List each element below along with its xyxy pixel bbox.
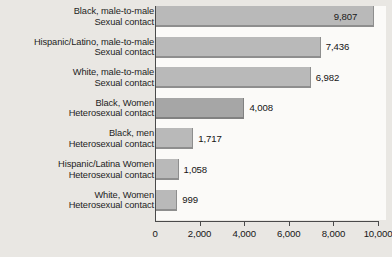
x-axis-tick (200, 222, 201, 226)
category-label-line2: Heterosexual contact (4, 108, 154, 119)
bar-value-label: 9,807 (334, 11, 358, 22)
x-axis-tick (333, 222, 334, 226)
category-label: Black, male-to-maleSexual contact (4, 6, 154, 27)
bar (155, 37, 321, 58)
x-axis-tick-label: 6,000 (277, 228, 301, 239)
bar-value-label: 1,058 (184, 164, 208, 175)
category-label-line1: Hispanic/Latino, male-to-male (34, 37, 154, 47)
category-label: White, male-to-maleSexual contact (4, 67, 154, 88)
category-label: Black, menHeterosexual contact (4, 128, 154, 149)
category-label-line2: Sexual contact (4, 47, 154, 58)
category-label-line1: Black, male-to-male (74, 6, 154, 16)
bar-value-label: 7,436 (326, 41, 350, 52)
bar-value-label: 999 (182, 194, 198, 205)
category-label-line1: Hispanic/Latina Women (58, 159, 154, 169)
x-axis-tick-label: 10,000 (364, 228, 392, 239)
x-axis-tick (289, 222, 290, 226)
category-label-line2: Heterosexual contact (4, 139, 154, 150)
x-axis-tick-label: 0 (152, 228, 157, 239)
bar (155, 159, 179, 180)
category-label: Black, WomenHeterosexual contact (4, 98, 154, 119)
bar-fill (155, 159, 179, 180)
x-axis-tick-label: 4,000 (232, 228, 256, 239)
bar-value-label: 6,982 (316, 72, 340, 83)
x-axis-line (155, 221, 379, 222)
bar-fill (155, 37, 321, 58)
bar-row: Hispanic/Latino, male-to-maleSexual cont… (0, 37, 386, 58)
bar-fill (155, 128, 193, 149)
category-label-line1: White, male-to-male (73, 67, 154, 77)
x-axis-tick (378, 222, 379, 226)
bar-row: Hispanic/Latina WomenHeterosexual contac… (0, 159, 386, 180)
category-label-line1: White, Women (94, 190, 154, 200)
category-label: White, WomenHeterosexual contact (4, 190, 154, 211)
category-label-line2: Sexual contact (4, 78, 154, 89)
category-label-line2: Sexual contact (4, 17, 154, 28)
bar (155, 67, 311, 88)
bar-row: Black, male-to-maleSexual contact9,807 (0, 6, 386, 27)
bar-rows: Black, male-to-maleSexual contact9,807Hi… (0, 6, 386, 220)
y-axis-line (155, 6, 156, 222)
x-axis-tick-label: 2,000 (188, 228, 212, 239)
bar-value-label: 1,717 (198, 133, 222, 144)
bar-fill (155, 190, 177, 211)
category-label-line1: Black, men (109, 128, 154, 138)
bar-row: Black, menHeterosexual contact1,717 (0, 128, 386, 149)
x-axis-tick-label: 8,000 (322, 228, 346, 239)
category-label-line1: Black, Women (95, 98, 154, 108)
x-axis-tick (244, 222, 245, 226)
bar-row: White, male-to-maleSexual contact6,982 (0, 67, 386, 88)
bar-fill (155, 98, 244, 119)
category-label-line2: Heterosexual contact (4, 200, 154, 211)
bar-value-label: 4,008 (249, 103, 273, 114)
bar-row: White, WomenHeterosexual contact999 (0, 190, 386, 211)
category-label-line2: Heterosexual contact (4, 170, 154, 181)
bar-fill (155, 67, 311, 88)
bar-row: Black, WomenHeterosexual contact4,008 (0, 98, 386, 119)
category-label: Hispanic/Latina WomenHeterosexual contac… (4, 159, 154, 180)
category-label: Hispanic/Latino, male-to-maleSexual cont… (4, 37, 154, 58)
bar (155, 190, 177, 211)
bar (155, 98, 244, 119)
bar (155, 128, 193, 149)
